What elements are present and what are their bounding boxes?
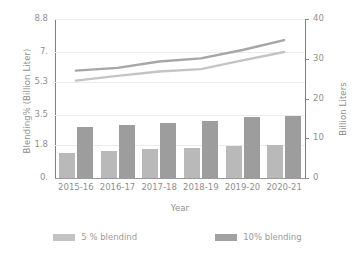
right-axis-tick — [305, 99, 309, 100]
legend-label: 5 % blendind — [81, 232, 137, 242]
right-axis-tick — [305, 59, 309, 60]
x-axis-tick-label: 2018-19 — [179, 182, 223, 192]
y-axis-right-title: Billion Liters — [338, 49, 348, 169]
y-axis-left-tick-label: 5.3 — [14, 77, 48, 86]
y-axis-left-tick-label: 8.8 — [14, 14, 48, 23]
line-series — [76, 40, 284, 71]
legend-item[interactable]: 10% blending — [215, 232, 302, 242]
y-axis-left-tick-label: 0. — [14, 173, 48, 182]
x-axis-tick-label: 2015-16 — [54, 182, 98, 192]
y-axis-left-tick-label: 1.8 — [14, 140, 48, 149]
right-axis-tick — [305, 178, 309, 179]
y-axis-right-tick-label: 0 — [313, 173, 343, 182]
y-axis-right-tick-label: 10 — [313, 133, 343, 142]
x-axis-tick-label: 2017-18 — [137, 182, 181, 192]
plot-area — [55, 19, 305, 178]
x-axis-title: Year — [55, 203, 305, 213]
x-axis-tick-label: 2020-21 — [262, 182, 306, 192]
y-axis-right-tick-label: 20 — [313, 94, 343, 103]
chart-legend: 5 % blendind10% blending — [0, 232, 355, 242]
legend-swatch — [215, 234, 237, 241]
legend-label: 10% blending — [243, 232, 302, 242]
x-axis-line — [55, 178, 306, 179]
line-series-container — [55, 19, 305, 178]
y-axis-right-tick-label: 30 — [313, 54, 343, 63]
line-series — [76, 52, 284, 81]
x-axis-tick-label: 2019-20 — [221, 182, 265, 192]
y-axis-left-tick-label: 7. — [14, 47, 48, 56]
x-axis-tick-label: 2016-17 — [96, 182, 140, 192]
y-axis-right-tick-label: 40 — [313, 14, 343, 23]
right-axis-tick — [305, 19, 309, 20]
legend-swatch — [53, 234, 75, 241]
right-axis-tick — [305, 138, 309, 139]
combo-bar-line-chart: Blending% (Billion Liter) Billion Liters… — [0, 0, 355, 257]
legend-item[interactable]: 5 % blendind — [53, 232, 137, 242]
y-axis-left-tick-label: 3.5 — [14, 110, 48, 119]
